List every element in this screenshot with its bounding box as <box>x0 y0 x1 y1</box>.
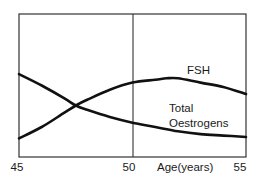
fsh-label: FSH <box>187 64 210 76</box>
hormone-chart: FSH Total Oestrogens 45 50 55 Age(years) <box>0 0 261 185</box>
x-tick-55: 55 <box>234 161 247 173</box>
x-tick-45: 45 <box>11 161 24 173</box>
oestrogen-label-line1: Total <box>169 102 193 114</box>
oestrogen-label-line2: Oestrogens <box>169 117 229 129</box>
x-tick-50: 50 <box>123 161 136 173</box>
x-axis-title: Age(years) <box>157 161 213 173</box>
